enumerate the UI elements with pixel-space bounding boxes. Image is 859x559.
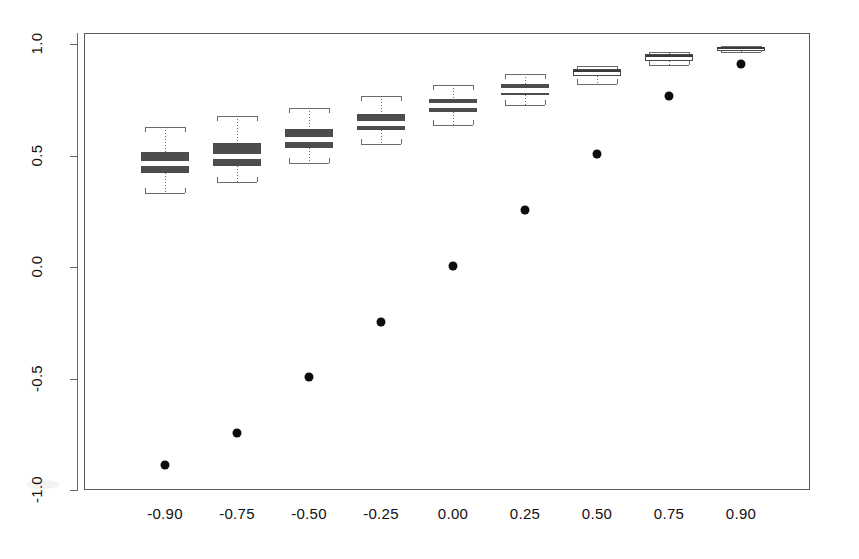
boxplot-whisker-cap bbox=[577, 66, 617, 67]
boxplot-whisker-cap-tick bbox=[473, 120, 474, 125]
data-point-marker bbox=[665, 92, 674, 101]
data-point-marker bbox=[233, 429, 242, 438]
x-axis-tick-label: 0.90 bbox=[726, 505, 756, 522]
boxplot-whisker-cap-tick bbox=[185, 127, 186, 132]
boxplot-whisker-cap bbox=[649, 65, 689, 66]
data-point-marker bbox=[737, 60, 746, 69]
boxplot-whisker-cap bbox=[721, 52, 761, 53]
boxplot-whisker-cap-tick bbox=[257, 116, 258, 121]
boxplot-whisker-cap-tick bbox=[257, 177, 258, 182]
boxplot-whisker-cap-tick bbox=[545, 100, 546, 105]
boxplot-whisker-cap bbox=[505, 105, 545, 106]
boxplot-median-line bbox=[573, 70, 621, 72]
boxplot-whisker-cap-tick bbox=[329, 158, 330, 163]
data-point-marker bbox=[161, 461, 170, 470]
boxplot-whisker bbox=[453, 85, 454, 98]
boxplot-whisker-cap-tick bbox=[505, 100, 506, 105]
boxplot-whisker bbox=[309, 148, 310, 164]
boxplot-median-line bbox=[357, 121, 405, 126]
boxplot-whisker-cap-tick bbox=[649, 60, 650, 65]
y-axis-tick bbox=[70, 44, 78, 45]
boxplot-whisker bbox=[381, 96, 382, 114]
boxplot-whisker bbox=[309, 108, 310, 129]
boxplot-whisker-cap-tick bbox=[401, 139, 402, 144]
boxplot-whisker bbox=[525, 95, 526, 105]
boxplot-median-line bbox=[429, 103, 477, 108]
boxplot-median-line bbox=[717, 47, 765, 49]
x-axis-tick-label: -0.50 bbox=[291, 505, 327, 522]
boxplot-whisker-cap-tick bbox=[473, 85, 474, 90]
boxplot-whisker-cap-tick bbox=[329, 108, 330, 113]
data-point-marker bbox=[449, 261, 458, 270]
y-axis-tick bbox=[70, 490, 78, 491]
x-axis-tick-label: -0.75 bbox=[219, 505, 255, 522]
x-axis-tick-label: 0.00 bbox=[438, 505, 468, 522]
boxplot-whisker-cap-tick bbox=[289, 158, 290, 163]
boxplot-whisker-cap-tick bbox=[217, 116, 218, 121]
boxplot-whisker-cap-tick bbox=[689, 60, 690, 65]
boxplot-whisker-cap bbox=[433, 125, 473, 126]
y-axis-tick bbox=[70, 156, 78, 157]
boxplot-whisker-cap bbox=[361, 144, 401, 145]
boxplot-whisker-cap-tick bbox=[361, 96, 362, 101]
x-axis-tick-label: -0.90 bbox=[147, 505, 183, 522]
y-axis-tick-label: -1.0 bbox=[28, 464, 45, 516]
boxplot-whisker bbox=[525, 74, 526, 84]
data-point-marker bbox=[521, 206, 530, 215]
boxplot-whisker-cap bbox=[145, 193, 185, 194]
y-axis-tick-label: 0.5 bbox=[28, 129, 45, 181]
boxplot-whisker-cap bbox=[217, 116, 257, 117]
boxplot-whisker bbox=[597, 76, 598, 84]
boxplot-whisker-cap bbox=[289, 108, 329, 109]
boxplot-whisker-cap-tick bbox=[185, 188, 186, 193]
y-axis-line bbox=[77, 33, 78, 490]
boxplot-whisker-cap-tick bbox=[617, 79, 618, 84]
boxplot-whisker bbox=[381, 130, 382, 144]
boxplot-whisker-cap-tick bbox=[401, 96, 402, 101]
boxplot-whisker-cap-tick bbox=[433, 85, 434, 90]
y-axis-tick bbox=[70, 267, 78, 268]
boxplot-whisker bbox=[165, 127, 166, 153]
boxplot-whisker-cap bbox=[577, 84, 617, 85]
chart-canvas: 1.00.50.0-0.5-1.0 -0.90-0.75-0.50-0.250.… bbox=[0, 0, 859, 559]
boxplot-whisker bbox=[237, 166, 238, 183]
boxplot-whisker-cap bbox=[145, 127, 185, 128]
boxplot-whisker-cap bbox=[289, 163, 329, 164]
boxplot-whisker-cap bbox=[649, 52, 689, 53]
boxplot-whisker-cap bbox=[433, 85, 473, 86]
y-axis-tick-label: -0.5 bbox=[28, 352, 45, 404]
boxplot-median-line bbox=[141, 161, 189, 166]
x-axis-tick-label: 0.75 bbox=[654, 505, 684, 522]
boxplot-whisker bbox=[237, 116, 238, 143]
y-axis-tick-label: 1.0 bbox=[28, 18, 45, 70]
x-axis-tick-label: 0.50 bbox=[582, 505, 612, 522]
x-axis-tick-label: -0.25 bbox=[363, 505, 399, 522]
boxplot-whisker-cap-tick bbox=[577, 79, 578, 84]
boxplot-whisker-cap bbox=[361, 96, 401, 97]
boxplot-whisker-cap bbox=[505, 74, 545, 75]
y-axis-tick-label: 0.0 bbox=[28, 241, 45, 293]
boxplot-whisker-cap-tick bbox=[217, 177, 218, 182]
x-axis-tick-label: 0.25 bbox=[510, 505, 540, 522]
boxplot-whisker bbox=[165, 173, 166, 193]
boxplot-whisker-cap-tick bbox=[361, 139, 362, 144]
y-axis-tick bbox=[70, 379, 78, 380]
boxplot-whisker-cap-tick bbox=[145, 127, 146, 132]
data-point-marker bbox=[377, 317, 386, 326]
boxplot-whisker-cap-tick bbox=[545, 74, 546, 79]
boxplot-whisker-cap-tick bbox=[505, 74, 506, 79]
boxplot-whisker-cap-tick bbox=[145, 188, 146, 193]
data-point-marker bbox=[593, 150, 602, 159]
boxplot-whisker-cap bbox=[217, 182, 257, 183]
boxplot-median-line bbox=[501, 88, 549, 93]
data-point-marker bbox=[305, 373, 314, 382]
boxplot-whisker bbox=[453, 112, 454, 125]
boxplot-median-line bbox=[213, 154, 261, 159]
boxplot-median-line bbox=[285, 137, 333, 142]
boxplot-median-line bbox=[645, 55, 693, 57]
boxplot-whisker-cap-tick bbox=[289, 108, 290, 113]
boxplot-whisker-cap-tick bbox=[433, 120, 434, 125]
